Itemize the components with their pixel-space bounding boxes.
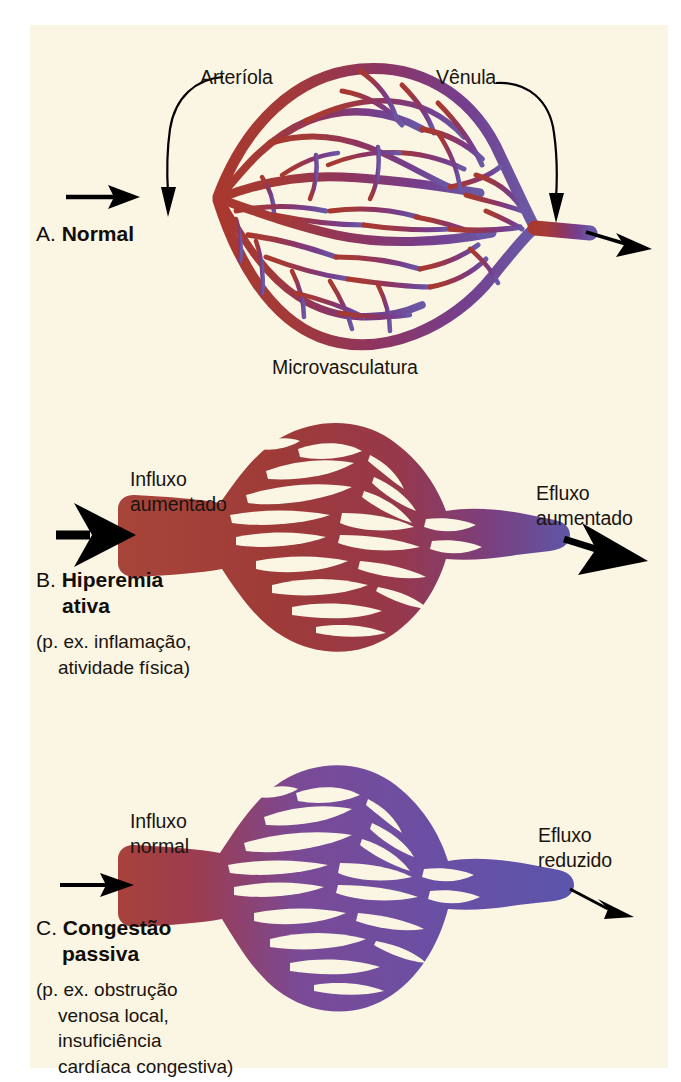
panel-b-title: B. Hiperemiaativa	[36, 567, 163, 619]
panel-c-passive-congestion: Influxonormal Efluxoreduzido C. Congestã…	[30, 723, 668, 1068]
panel-b-letter: B.	[36, 568, 56, 591]
panel-b-active-hyperemia: Influxoaumentado Efluxoaumentado B. Hipe…	[30, 385, 668, 723]
label-outflow-c-line1: Efluxo	[538, 824, 592, 846]
panel-c-caption: (p. ex. obstruçãovenosa local,insuficiên…	[36, 977, 233, 1079]
panel-a-normal: Arteríola Vênula Microvasculatura A. Nor…	[30, 25, 668, 385]
label-outflow-c-line2: reduzido	[538, 849, 612, 871]
label-outflow-b-line1: Efluxo	[536, 482, 590, 504]
panel-c-caption-line1: (p. ex. obstrução	[36, 979, 178, 1000]
inflow-arrow-a	[66, 185, 140, 209]
label-microvasculature: Microvasculatura	[272, 355, 418, 380]
label-inflow-c-line2: normal	[130, 835, 189, 857]
venule-leader-arrowhead	[549, 193, 564, 223]
figure-root: Arteríola Vênula Microvasculatura A. Nor…	[0, 0, 681, 1082]
panel-c-title: C. Congestãopassiva	[36, 915, 171, 967]
panel-a-title: A. Normal	[36, 221, 134, 247]
panel-b-title-text: Hiperemia	[62, 568, 164, 591]
panel-c-caption-line2: venosa local,	[36, 1003, 233, 1029]
panel-a-letter: A.	[36, 222, 56, 245]
figure-plate: Arteríola Vênula Microvasculatura A. Nor…	[30, 25, 668, 1068]
capillary-bed-b	[118, 423, 570, 652]
label-inflow-c: Influxonormal	[130, 809, 189, 859]
label-inflow-b: Influxoaumentado	[130, 467, 227, 517]
label-outflow-b-line2: aumentado	[536, 507, 633, 529]
capillary-bed-c	[118, 765, 574, 1011]
panel-c-caption-line4: cardíaca congestiva)	[36, 1054, 233, 1080]
panel-b-caption-line1: (p. ex. inflamação,	[36, 631, 191, 652]
panel-c-title-line2: passiva	[36, 941, 171, 967]
panel-b-title-line2: ativa	[36, 593, 163, 619]
panel-c-title-text: Congestão	[63, 916, 172, 939]
panel-a-illustration	[30, 25, 668, 385]
arteriole-leader-line	[167, 77, 223, 193]
label-inflow-b-line2: aumentado	[130, 493, 227, 515]
label-arteriole: Arteríola	[200, 65, 273, 90]
panel-c-letter: C.	[36, 916, 57, 939]
outflow-arrow-a	[586, 232, 652, 257]
panel-b-caption-line2: atividade física)	[36, 655, 191, 681]
label-inflow-b-line1: Influxo	[130, 468, 187, 490]
capillary-bed-a	[138, 68, 590, 344]
label-outflow-b: Efluxoaumentado	[536, 481, 633, 531]
venule-leader-line	[496, 83, 557, 199]
panel-b-caption: (p. ex. inflamação,atividade física)	[36, 629, 191, 680]
label-inflow-c-line1: Influxo	[130, 810, 187, 832]
label-outflow-c: Efluxoreduzido	[538, 823, 612, 873]
panel-c-caption-line3: insuficiência	[36, 1028, 233, 1054]
label-venule: Vênula	[436, 65, 496, 90]
panel-a-title-text: Normal	[62, 222, 134, 245]
outflow-arrow-c	[570, 889, 634, 919]
